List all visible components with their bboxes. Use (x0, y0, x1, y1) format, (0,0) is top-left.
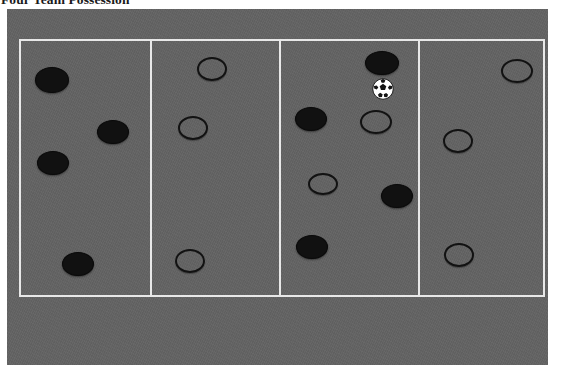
player-marker-outline-4-2 (443, 129, 473, 153)
player-marker-outline-2-2 (178, 116, 208, 140)
screenshot-root: Four Team Possession (0, 0, 565, 376)
player-marker-dark-3-2 (295, 107, 327, 131)
page-title-clip: Four Team Possession (0, 0, 300, 9)
player-marker-dark-1-1 (35, 67, 69, 93)
soccer-ball-svg (372, 78, 394, 100)
player-marker-dark-3-1 (365, 51, 399, 75)
player-marker-dark-1-3 (37, 151, 69, 175)
player-marker-dark-3-5 (381, 184, 413, 208)
player-marker-outline-4-3 (444, 243, 474, 267)
player-marker-outline-2-3 (175, 249, 205, 273)
player-marker-dark-1-2 (97, 120, 129, 144)
tactics-diagram (7, 9, 548, 365)
player-marker-outline-3-4 (308, 173, 338, 195)
player-marker-dark-1-4 (62, 252, 94, 276)
player-marker-outline-4-1 (501, 59, 533, 83)
grid-zone-3 (279, 41, 418, 295)
player-marker-outline-2-1 (197, 57, 227, 81)
soccer-ball-icon (372, 78, 394, 100)
player-marker-outline-3-3 (360, 110, 392, 134)
player-marker-dark-3-6 (296, 235, 328, 259)
page-title: Four Team Possession (1, 0, 130, 7)
